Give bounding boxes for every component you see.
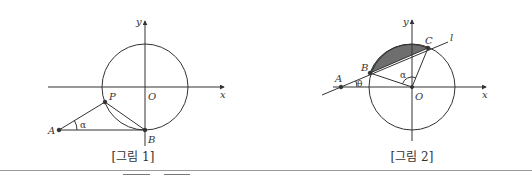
label-O2: O [415, 91, 423, 102]
label-y1: y [135, 16, 142, 27]
label-l: l [450, 32, 453, 43]
label-P: P [108, 91, 116, 102]
label-y2: y [402, 16, 409, 27]
angle-alpha-arc [74, 121, 77, 130]
point-P [103, 100, 107, 104]
label-A2: A [334, 73, 342, 84]
point-B [368, 71, 372, 75]
label-O1: O [148, 91, 156, 102]
label-B1: B [147, 134, 155, 145]
label-alpha2: α [400, 70, 406, 80]
separator-line [0, 170, 532, 171]
point-O [410, 85, 413, 88]
point-C [426, 46, 430, 50]
segment-PB [105, 102, 145, 130]
figure-1 [48, 21, 224, 146]
tab-box-1 [123, 174, 150, 177]
label-B2: B [360, 62, 368, 73]
label-alpha1: α [80, 120, 86, 130]
point-A [339, 85, 343, 89]
label-theta2: θ [357, 79, 362, 89]
figure-1-caption: [그림 1] [73, 147, 193, 164]
label-x1: x [220, 89, 226, 100]
tab-box-2 [164, 174, 190, 177]
point-A [57, 128, 61, 132]
label-x2: x [482, 89, 488, 100]
label-A1: A [47, 125, 55, 136]
point-B [143, 128, 147, 132]
label-C2: C [425, 35, 433, 46]
figure-2-caption: [그림 2] [352, 147, 472, 164]
figure-2 [322, 20, 486, 141]
